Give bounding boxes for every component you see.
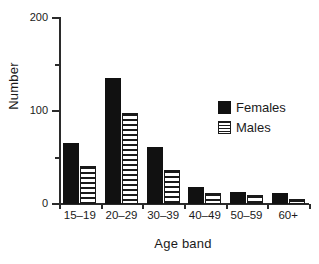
bar-group (147, 18, 180, 204)
bar-females-40–49 (188, 187, 204, 204)
bar-group (105, 18, 138, 204)
x-category-label: 30–39 (142, 209, 184, 221)
x-category-label: 15–19 (59, 209, 101, 221)
bar-males-20–29 (122, 113, 138, 204)
y-tick-label-200: 200 (14, 12, 48, 23)
legend-swatch-females-icon (218, 101, 231, 114)
bar-group (63, 18, 96, 204)
y-axis-title: Number (6, 38, 22, 134)
bar-females-50–59 (230, 192, 246, 204)
bar-males-40–49 (205, 193, 221, 204)
bar-males-30–39 (164, 170, 180, 204)
bar-group (188, 18, 221, 204)
x-category-label: 40–49 (184, 209, 226, 221)
chart-legend: Females Males (218, 99, 286, 139)
legend-label-males: Males (236, 119, 271, 136)
x-tick (309, 204, 311, 209)
bar-females-15–19 (63, 143, 79, 204)
bar-females-60+ (272, 193, 288, 204)
x-axis-title: Age band (58, 236, 308, 251)
x-category-label: 60+ (267, 209, 309, 221)
bar-females-30–39 (147, 147, 163, 204)
y-tick-label-100: 100 (14, 105, 48, 116)
bar-males-60+ (289, 199, 305, 204)
bar-females-20–29 (105, 78, 121, 204)
legend-item-females: Females (218, 99, 286, 116)
legend-item-males: Males (218, 119, 286, 136)
y-tick-label-0: 0 (14, 198, 48, 209)
x-category-label: 20–29 (101, 209, 143, 221)
x-category-label: 50–59 (226, 209, 268, 221)
legend-swatch-males-icon (218, 121, 231, 134)
bar-males-50–59 (247, 195, 263, 204)
bar-males-15–19 (80, 166, 96, 204)
legend-label-females: Females (236, 99, 286, 116)
bar-chart-figure: Number 0100200 15–1920–2930–3940–4950–59… (0, 0, 319, 264)
